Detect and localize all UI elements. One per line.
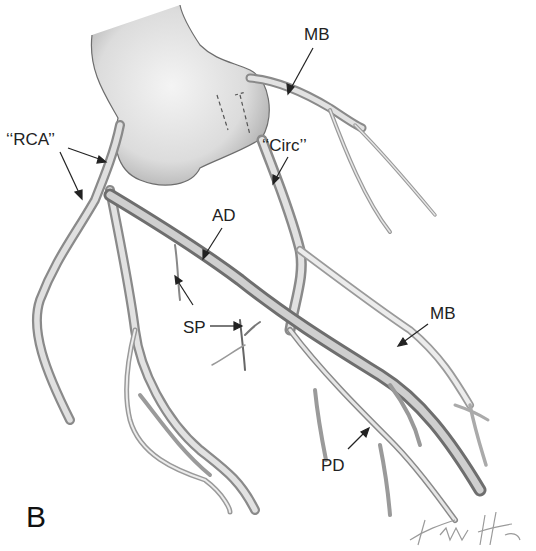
artery-drawing — [0, 0, 536, 551]
vessel-mb-top — [250, 78, 435, 232]
artist-signature — [410, 512, 520, 545]
aortic-root — [91, 5, 269, 185]
coronary-artery-illustration: ‘‘RCA’’ ‘‘Circ’’ MB AD SP MB PD B — [0, 0, 536, 551]
label-pd: PD — [321, 457, 345, 474]
label-mb-top: MB — [304, 26, 330, 43]
label-rca: ‘‘RCA’’ — [6, 131, 55, 148]
label-mb-right: MB — [430, 305, 456, 322]
vessel-rca — [37, 125, 120, 420]
panel-letter: B — [26, 502, 46, 532]
label-circ: ‘‘Circ’’ — [262, 137, 307, 154]
label-sp: SP — [183, 319, 206, 336]
vessel-circ — [262, 140, 488, 465]
label-ad: AD — [212, 207, 236, 224]
